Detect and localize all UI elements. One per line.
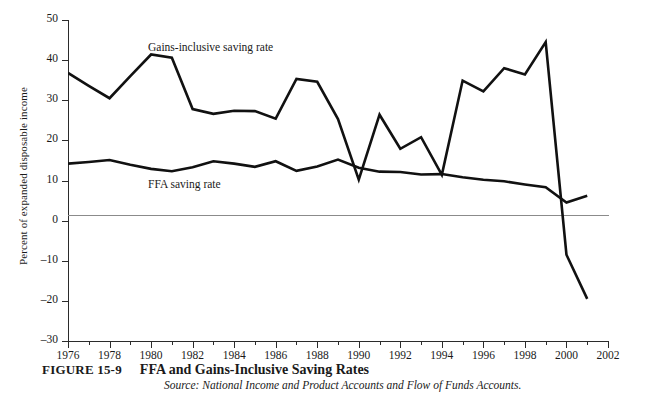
x-axis-tick-label: 1996 bbox=[463, 349, 503, 361]
y-axis-tick-label: 0 bbox=[0, 214, 58, 226]
x-axis-tick-minor bbox=[546, 341, 547, 345]
x-axis-tick-label: 1982 bbox=[173, 349, 213, 361]
gains-inclusive-series-label: Gains-inclusive saving rate bbox=[148, 41, 273, 53]
x-axis-tick-label: 1976 bbox=[48, 349, 88, 361]
x-axis-tick-major bbox=[483, 341, 484, 348]
x-axis-tick-minor bbox=[213, 341, 214, 345]
x-axis-tick-major bbox=[110, 341, 111, 348]
ffa-line bbox=[68, 160, 587, 203]
y-axis-tick-label: 50 bbox=[0, 13, 58, 25]
x-axis-tick-minor bbox=[338, 341, 339, 345]
x-axis-tick-label: 1986 bbox=[256, 349, 296, 361]
y-axis-tick-label: 20 bbox=[0, 133, 58, 145]
x-axis-tick-major bbox=[400, 341, 401, 348]
x-axis-tick-label: 1994 bbox=[422, 349, 462, 361]
x-axis-tick-major bbox=[317, 341, 318, 348]
x-axis-tick-minor bbox=[296, 341, 297, 345]
x-axis-tick-label: 1992 bbox=[380, 349, 420, 361]
x-axis-tick-major bbox=[193, 341, 194, 348]
x-axis-tick-major bbox=[566, 341, 567, 348]
y-axis-tick-label: –10 bbox=[0, 254, 58, 266]
x-axis-tick-label: 1980 bbox=[131, 349, 171, 361]
x-axis-tick-label: 2002 bbox=[588, 349, 628, 361]
x-axis-tick-minor bbox=[504, 341, 505, 345]
figure-title: FFA and Gains-Inclusive Saving Rates bbox=[140, 362, 369, 378]
x-axis-tick-major bbox=[68, 341, 69, 348]
x-axis-tick-major bbox=[359, 341, 360, 348]
x-axis-tick-major bbox=[525, 341, 526, 348]
y-axis-tick-label: 30 bbox=[0, 93, 58, 105]
y-axis-tick-label: –30 bbox=[0, 334, 58, 346]
x-axis-tick-major bbox=[276, 341, 277, 348]
y-axis-tick-label: –20 bbox=[0, 294, 58, 306]
x-axis-tick-major bbox=[151, 341, 152, 348]
figure-number: FIGURE 15-9 bbox=[42, 362, 122, 378]
y-axis-tick-label: 40 bbox=[0, 53, 58, 65]
caption-row: FIGURE 15-9 FFA and Gains-Inclusive Savi… bbox=[0, 362, 652, 378]
x-axis-tick-minor bbox=[380, 341, 381, 345]
figure-source: Source: National Income and Product Acco… bbox=[0, 379, 652, 391]
x-axis-tick-label: 2000 bbox=[546, 349, 586, 361]
x-axis-tick-major bbox=[442, 341, 443, 348]
x-axis-tick-label: 1998 bbox=[505, 349, 545, 361]
x-axis-tick-major bbox=[234, 341, 235, 348]
x-axis-tick-minor bbox=[89, 341, 90, 345]
ffa-series-label: FFA saving rate bbox=[148, 178, 221, 190]
x-axis-tick-minor bbox=[587, 341, 588, 345]
x-axis-tick-label: 1988 bbox=[297, 349, 337, 361]
x-axis-tick-label: 1984 bbox=[214, 349, 254, 361]
x-axis-tick-minor bbox=[172, 341, 173, 345]
x-axis-tick-major bbox=[608, 341, 609, 348]
figure-caption: FIGURE 15-9 FFA and Gains-Inclusive Savi… bbox=[0, 362, 652, 391]
gains-inclusive-line bbox=[68, 42, 587, 299]
x-axis-tick-minor bbox=[421, 341, 422, 345]
x-axis-tick-minor bbox=[255, 341, 256, 345]
x-axis-tick-label: 1978 bbox=[90, 349, 130, 361]
x-axis-tick-label: 1990 bbox=[339, 349, 379, 361]
figure-container: Percent of expanded disposable income 50… bbox=[0, 0, 652, 402]
x-axis-tick-minor bbox=[463, 341, 464, 345]
x-axis-tick-minor bbox=[130, 341, 131, 345]
y-axis-tick-label: 10 bbox=[0, 174, 58, 186]
